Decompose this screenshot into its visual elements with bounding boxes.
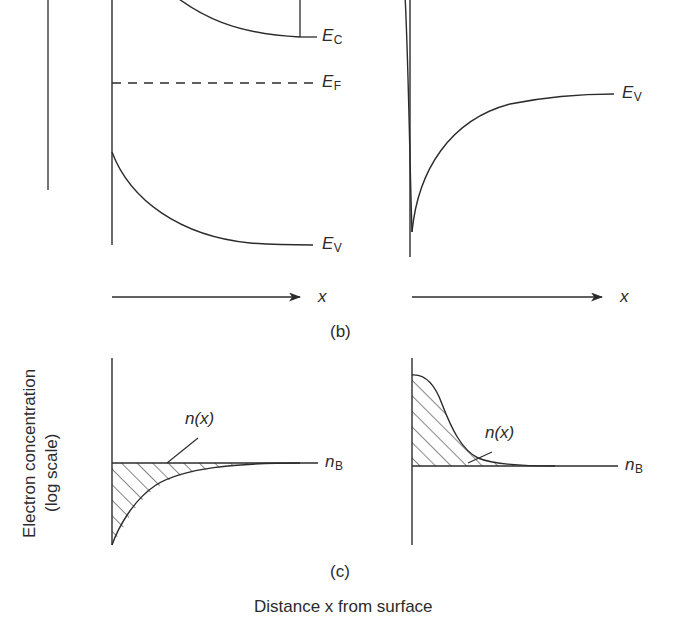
depletion-hatch-area bbox=[112, 463, 300, 545]
panel-b-right-chart bbox=[404, 0, 614, 297]
fermi-level-label: EF bbox=[322, 73, 341, 92]
x-axis-label-b-left: x bbox=[318, 288, 327, 305]
nx-label-c-right: n(x) bbox=[485, 424, 514, 441]
valence-band-curve-right bbox=[404, 0, 412, 232]
valence-band-curve-right-tail bbox=[412, 94, 614, 232]
nx-label-c-left: n(x) bbox=[185, 410, 214, 427]
figure-canvas bbox=[0, 0, 685, 626]
panel-label-b: (b) bbox=[330, 322, 351, 342]
panel-c-right-chart bbox=[412, 358, 618, 545]
nx-leader-line-c-left bbox=[167, 438, 198, 463]
valence-band-label-left: EV bbox=[322, 235, 342, 254]
y-axis-label-line2: (log scale) bbox=[42, 434, 62, 512]
figure-caption: Distance x from surface bbox=[254, 597, 433, 617]
panel-c-left-chart bbox=[112, 358, 318, 545]
x-axis-label-b-right: x bbox=[620, 288, 629, 305]
valence-band-curve bbox=[112, 152, 313, 245]
panel-b-left-chart bbox=[48, 0, 317, 297]
conduction-band-curve bbox=[158, 0, 300, 37]
accumulation-hatch-area bbox=[412, 375, 548, 466]
panel-label-c: (c) bbox=[330, 562, 350, 582]
valence-band-label-right: EV bbox=[622, 84, 642, 103]
bulk-label-c-left: nB bbox=[325, 453, 343, 472]
conduction-band-label: EC bbox=[322, 27, 343, 46]
figure-root: EC EF EV EV x x (b) Electron concentrati… bbox=[0, 0, 685, 626]
y-axis-label-line1: Electron concentration bbox=[20, 369, 40, 538]
bulk-label-c-right: nB bbox=[625, 456, 643, 475]
